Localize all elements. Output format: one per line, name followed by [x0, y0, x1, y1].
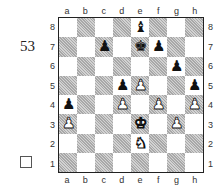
square-g3[interactable]: ♟ — [167, 114, 185, 133]
square-c8[interactable] — [95, 18, 113, 37]
square-d1[interactable] — [113, 153, 131, 172]
square-e3[interactable]: ♚ — [131, 114, 149, 133]
square-c4[interactable] — [95, 95, 113, 114]
rank-label: 6 — [50, 61, 55, 71]
square-e6[interactable] — [131, 57, 149, 76]
square-f1[interactable] — [149, 153, 167, 172]
black-pawn-icon[interactable]: ♟ — [170, 59, 183, 74]
square-d7[interactable] — [113, 37, 131, 56]
square-a4[interactable]: ♟ — [59, 95, 77, 114]
square-d6[interactable] — [113, 57, 131, 76]
file-label: a — [58, 175, 76, 185]
square-e5[interactable]: ♟ — [131, 76, 149, 95]
black-pawn-icon[interactable]: ♟ — [188, 78, 201, 93]
square-c3[interactable] — [95, 114, 113, 133]
square-d2[interactable] — [113, 134, 131, 153]
black-bishop-icon[interactable]: ♝ — [134, 20, 147, 35]
square-a3[interactable]: ♟ — [59, 114, 77, 133]
file-label: a — [58, 6, 76, 16]
rank-label: 4 — [208, 100, 213, 110]
square-b6[interactable] — [77, 57, 95, 76]
square-h7[interactable] — [185, 37, 203, 56]
white-pawn-icon[interactable]: ♟ — [62, 116, 75, 131]
white-pawn-icon[interactable]: ♟ — [116, 97, 129, 112]
white-pawn-icon[interactable]: ♟ — [152, 97, 165, 112]
puzzle-number: 53 — [20, 38, 35, 55]
square-c1[interactable] — [95, 153, 113, 172]
square-e7[interactable]: ♚ — [131, 37, 149, 56]
black-pawn-icon[interactable]: ♟ — [62, 97, 75, 112]
black-king-icon[interactable]: ♚ — [134, 39, 147, 54]
white-pawn-icon[interactable]: ♟ — [134, 78, 147, 93]
black-pawn-icon[interactable]: ♟ — [152, 39, 165, 54]
square-b2[interactable] — [77, 134, 95, 153]
square-c5[interactable] — [95, 76, 113, 95]
square-c7[interactable]: ♟ — [95, 37, 113, 56]
square-h3[interactable] — [185, 114, 203, 133]
square-g4[interactable] — [167, 95, 185, 114]
rank-label: 3 — [50, 120, 55, 130]
rank-label: 5 — [208, 81, 213, 91]
square-a1[interactable] — [59, 153, 77, 172]
square-b4[interactable] — [77, 95, 95, 114]
square-a7[interactable] — [59, 37, 77, 56]
rank-label: 4 — [50, 100, 55, 110]
square-c6[interactable] — [95, 57, 113, 76]
square-g5[interactable] — [167, 76, 185, 95]
square-f8[interactable] — [149, 18, 167, 37]
square-f2[interactable] — [149, 134, 167, 153]
file-label: c — [95, 175, 113, 185]
square-d5[interactable]: ♟ — [113, 76, 131, 95]
white-pawn-icon[interactable]: ♟ — [170, 116, 183, 131]
square-g8[interactable] — [167, 18, 185, 37]
square-b5[interactable] — [77, 76, 95, 95]
rank-label: 6 — [208, 61, 213, 71]
square-d4[interactable]: ♟ — [113, 95, 131, 114]
square-a8[interactable] — [59, 18, 77, 37]
square-f6[interactable] — [149, 57, 167, 76]
black-pawn-icon[interactable]: ♟ — [116, 78, 129, 93]
square-f7[interactable]: ♟ — [149, 37, 167, 56]
rank-label: 3 — [208, 120, 213, 130]
square-b3[interactable] — [77, 114, 95, 133]
square-a6[interactable] — [59, 57, 77, 76]
square-a5[interactable] — [59, 76, 77, 95]
file-label: h — [186, 6, 204, 16]
square-h2[interactable] — [185, 134, 203, 153]
square-h1[interactable] — [185, 153, 203, 172]
solved-checkbox[interactable] — [20, 156, 32, 168]
square-g2[interactable] — [167, 134, 185, 153]
square-a2[interactable] — [59, 134, 77, 153]
square-f4[interactable]: ♟ — [149, 95, 167, 114]
square-e1[interactable] — [131, 153, 149, 172]
black-pawn-icon[interactable]: ♟ — [98, 39, 111, 54]
square-h6[interactable] — [185, 57, 203, 76]
file-label: b — [76, 6, 94, 16]
square-g1[interactable] — [167, 153, 185, 172]
square-f5[interactable] — [149, 76, 167, 95]
square-h5[interactable]: ♟ — [185, 76, 203, 95]
white-king-icon[interactable]: ♚ — [134, 116, 147, 131]
square-h4[interactable]: ♟ — [185, 95, 203, 114]
file-label: g — [168, 175, 186, 185]
square-e4[interactable] — [131, 95, 149, 114]
square-e8[interactable]: ♝ — [131, 18, 149, 37]
white-knight-icon[interactable]: ♞ — [134, 136, 147, 151]
rank-label: 5 — [50, 81, 55, 91]
file-label: e — [131, 175, 149, 185]
square-d8[interactable] — [113, 18, 131, 37]
file-label: b — [76, 175, 94, 185]
square-b1[interactable] — [77, 153, 95, 172]
square-c2[interactable] — [95, 134, 113, 153]
white-pawn-icon[interactable]: ♟ — [188, 97, 201, 112]
rank-label: 2 — [50, 139, 55, 149]
square-d3[interactable] — [113, 114, 131, 133]
square-e2[interactable]: ♞ — [131, 134, 149, 153]
square-g7[interactable] — [167, 37, 185, 56]
square-b7[interactable] — [77, 37, 95, 56]
chess-board: ♝♟♚♟♟♟♟♟♟♟♟♟♟♚♟♞ — [58, 17, 204, 173]
square-b8[interactable] — [77, 18, 95, 37]
square-g6[interactable]: ♟ — [167, 57, 185, 76]
square-f3[interactable] — [149, 114, 167, 133]
square-h8[interactable] — [185, 18, 203, 37]
